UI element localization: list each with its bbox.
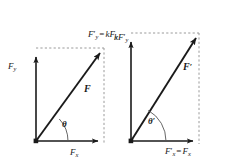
original-force-diagram: [34, 48, 104, 144]
origin-marker-left: [34, 139, 39, 144]
vector-f-prime-mark: ′: [190, 62, 193, 72]
theta-prime-mark: ′: [153, 116, 156, 126]
label-fy-left-sub: y: [14, 65, 17, 72]
fx-prime-rhs-sub: x: [188, 150, 191, 157]
resultant-vector-arrow-left: [36, 53, 100, 141]
origin-marker-right: [129, 139, 134, 144]
label-vector-f-left: F: [84, 84, 91, 94]
label-theta-prime-right: θ′: [148, 117, 155, 126]
fx-prime-lhs-sub: x: [172, 150, 175, 157]
label-fx-left-sub: x: [76, 151, 79, 158]
label-fx-left: Fx: [70, 148, 78, 157]
label-fx-prime-equation: F′x=Fx: [165, 147, 191, 156]
equation-lhs-sub: y: [95, 33, 98, 40]
label-fy-left-base: F: [8, 61, 14, 71]
label-kfy-sub: y: [125, 36, 128, 43]
vector-diagram-figure: Fy Fx θ F F′y=kFy kF′y F′x=Fx θ′ F′: [0, 0, 230, 168]
vector-f-prime-base: F: [183, 61, 190, 72]
scaled-force-diagram: [129, 33, 199, 144]
diagram-canvas: [0, 0, 230, 168]
resultant-vector-arrow-right: [131, 38, 196, 141]
label-fx-left-base: F: [70, 147, 76, 157]
label-fy-left: Fy: [8, 62, 16, 71]
label-vector-f-prime-right: F′: [183, 62, 192, 72]
label-kfy-right: kF′y: [114, 33, 128, 42]
label-theta-left: θ: [62, 120, 67, 129]
